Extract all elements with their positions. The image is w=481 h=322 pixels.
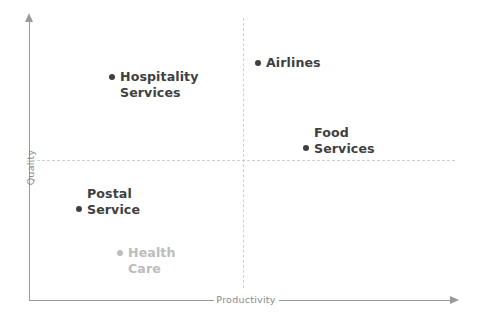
data-point-label-text: Airlines (266, 55, 321, 70)
data-point-label-line: Services (303, 141, 375, 157)
data-point-label-line: Service (76, 202, 140, 218)
data-point-label-text: Food (314, 125, 349, 140)
data-point-marker-dot-icon (76, 206, 82, 212)
data-point-label-line: Food (303, 125, 375, 141)
data-point-label-text: Services (120, 85, 181, 100)
data-point-hospitality-services[interactable]: Hospitality Services (109, 69, 199, 100)
x-axis-title: Productivity (215, 294, 277, 305)
data-point-postal-service[interactable]: Postal Service (76, 186, 140, 217)
quadrant-divider-horizontal (32, 160, 455, 161)
data-point-airlines[interactable]: Airlines (255, 55, 321, 71)
data-point-label-line: Care (117, 261, 175, 277)
data-point-food-services[interactable]: Food Services (303, 125, 375, 156)
quadrant-divider-vertical (243, 18, 244, 288)
data-point-label-line: Services (109, 85, 199, 101)
data-point-marker-dot-icon (117, 250, 123, 256)
data-point-label-text: Services (314, 141, 375, 156)
data-point-marker-dot-icon (303, 145, 309, 151)
data-point-label-text: Service (87, 202, 140, 217)
data-point-label-text: Care (128, 261, 161, 276)
data-point-label-line: Postal (76, 186, 140, 202)
data-point-label-text: Health (128, 245, 175, 260)
x-axis-line-left-segment (29, 300, 214, 301)
data-point-health-care[interactable]: Health Care (117, 245, 175, 276)
data-point-label-line: Airlines (255, 55, 321, 71)
quadrant-scatter-chart: Quality Productivity Hospitality Service… (0, 0, 481, 322)
x-axis-line-right-segment (279, 300, 451, 301)
data-point-marker-dot-icon (109, 74, 115, 80)
y-axis-title: Quality (25, 133, 36, 203)
x-axis-arrow-icon (450, 296, 459, 304)
data-point-label-line: Hospitality (109, 69, 199, 85)
data-point-marker-dot-icon (255, 60, 261, 66)
y-axis-arrow-icon (25, 13, 33, 22)
data-point-label-text: Postal (87, 186, 132, 201)
data-point-label-text: Hospitality (120, 69, 199, 84)
data-point-label-line: Health (117, 245, 175, 261)
